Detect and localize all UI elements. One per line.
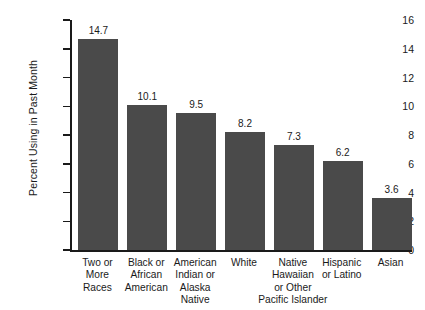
bar	[274, 145, 314, 250]
bar-value-label: 14.7	[66, 25, 130, 37]
y-axis-tick-label: 16	[367, 15, 425, 26]
y-axis-tick-label: 14	[367, 44, 425, 55]
bar	[372, 198, 412, 250]
y-axis-tick-label: 10	[367, 101, 425, 112]
y-axis-tick	[63, 77, 70, 79]
y-axis-tick	[63, 19, 70, 21]
x-axis-line	[70, 250, 412, 252]
bar	[127, 105, 167, 250]
y-axis-tick	[63, 221, 70, 223]
y-axis-tick-label: 8	[367, 130, 425, 141]
y-axis-tick	[63, 192, 70, 194]
y-axis-tick	[63, 48, 70, 50]
y-axis-tick	[63, 106, 70, 108]
y-axis-tick-label: 6	[367, 159, 425, 170]
y-axis-tick	[63, 134, 70, 136]
bar-value-label: 7.3	[262, 131, 326, 143]
bar-value-label: 8.2	[213, 118, 277, 130]
bar-value-label: 9.5	[164, 99, 228, 111]
y-axis-tick-label: 12	[367, 73, 425, 84]
y-axis-tick	[63, 249, 70, 251]
bar	[176, 113, 216, 250]
bar-chart: Percent Using in Past Month 161412108642…	[0, 0, 425, 310]
bar	[323, 161, 363, 250]
bar-value-label: 3.6	[360, 184, 424, 196]
x-axis-category-label: Asian	[358, 257, 424, 269]
bar	[78, 39, 118, 250]
y-axis-line	[70, 20, 72, 251]
bar-value-label: 6.2	[311, 147, 375, 159]
bar	[225, 132, 265, 250]
y-axis-title: Percent Using in Past Month	[22, 3, 44, 253]
y-axis-tick	[63, 163, 70, 165]
